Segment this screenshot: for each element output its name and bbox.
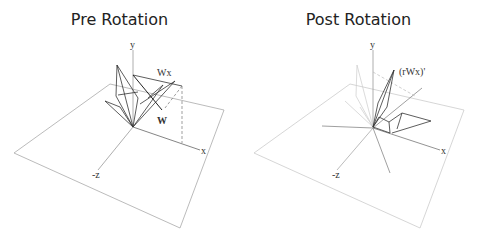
pre-rotation-panel: Pre Rotation y x -z Wx W bbox=[0, 0, 239, 240]
w-label: W bbox=[157, 115, 167, 126]
pre-rotation-diagram: y x -z Wx W bbox=[0, 0, 239, 240]
z-axis bbox=[98, 127, 133, 170]
rwx-label: (rWx)' bbox=[399, 66, 425, 78]
x-axis-label: x bbox=[201, 145, 206, 156]
z-axis bbox=[337, 128, 373, 170]
z-axis-label: -z bbox=[92, 169, 100, 180]
post-rotation-diagram: y x -z (rWx)' bbox=[239, 0, 478, 240]
x-axis bbox=[133, 127, 200, 150]
x-axis bbox=[373, 128, 440, 150]
ground-plane bbox=[14, 84, 224, 228]
wx-label: Wx bbox=[157, 67, 171, 78]
y-axis-label: y bbox=[370, 39, 375, 50]
ground-plane bbox=[254, 84, 464, 228]
x-axis-label: x bbox=[441, 145, 446, 156]
crane-shape-rotated bbox=[373, 70, 431, 133]
post-rotation-panel: Post Rotation y x -z (rWx)' bbox=[239, 0, 478, 240]
y-axis-label: y bbox=[130, 39, 135, 50]
z-axis-label: -z bbox=[332, 169, 340, 180]
